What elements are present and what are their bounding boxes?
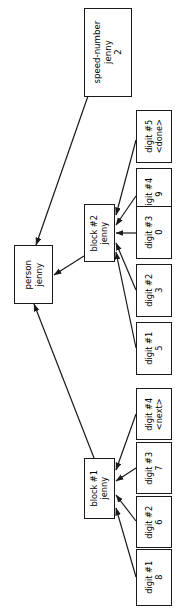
block-1-digit-4-node[interactable]: digit #4<next> [136, 388, 172, 440]
block-2-digit-2-node-value: 3 [154, 274, 164, 307]
block-2-digit-2-node-label: digit #23 [144, 274, 165, 307]
block-2-digit-5-node-label: digit #5<done> [144, 119, 165, 153]
block-1-digit-2-node[interactable]: digit #26 [136, 496, 172, 548]
block-2-digit-1-node-value: 5 [154, 332, 164, 365]
speed-number-node-label: speed-numberjenny2 [92, 21, 124, 84]
person-node-title: person [23, 260, 34, 289]
block-2-digit-2-node[interactable]: digit #23 [136, 264, 172, 317]
block-2-node[interactable]: block #2jenny [84, 204, 115, 262]
speed-number-node-title: speed-number [92, 21, 103, 84]
block-1-digit-4-node-value: <next> [154, 398, 164, 431]
block-1-digit-4-node-title: digit #4 [144, 398, 154, 431]
block-2-digit-3-node-label: digit #30 [144, 216, 165, 249]
edge-speed-number-to-person [36, 96, 88, 245]
block-1-digit-3-node-title: digit #3 [144, 452, 154, 485]
block-1-node[interactable]: block #1jenny [84, 458, 115, 519]
block-1-digit-1-node-label: digit #18 [144, 561, 165, 594]
block-2-node-label: block #2jenny [89, 215, 110, 251]
block-2-digit-3-node-title: digit #3 [144, 216, 154, 249]
block-2-digit-2-node-title: digit #2 [144, 274, 154, 307]
block-1-digit-1-node[interactable]: digit #18 [136, 549, 172, 606]
edge-digit-2-to-block-1 [116, 495, 136, 521]
block-1-node-label: block #1jenny [89, 470, 110, 506]
block-2-digit-1-node-label: digit #15 [144, 332, 165, 365]
edge-digit-5-to-block-2 [116, 140, 136, 215]
edge-digit-3-to-block-1 [116, 468, 136, 481]
edge-digit-4-to-block-1 [116, 414, 136, 470]
block-2-digit-5-node[interactable]: digit #5<done> [136, 110, 172, 163]
edge-digit-2-to-block-2 [116, 243, 136, 290]
block-2-digit-3-node[interactable]: digit #30 [136, 206, 172, 259]
person-node-label: personjenny [23, 260, 44, 289]
block-2-digit-5-node-value: <done> [154, 119, 164, 153]
person-node-owner: jenny [34, 260, 45, 289]
block-1-node-title: block #1 [89, 470, 99, 506]
speed-number-node-value: 2 [113, 21, 124, 84]
block-2-digit-3-node-value: 0 [154, 216, 164, 249]
block-1-digit-3-node-label: digit #37 [144, 452, 165, 485]
speed-number-node[interactable]: speed-numberjenny2 [84, 8, 132, 97]
block-2-node-title: block #2 [89, 215, 99, 251]
block-1-digit-2-node-label: digit #26 [144, 506, 165, 539]
speed-number-node-owner: jenny [103, 21, 114, 84]
block-1-digit-4-node-label: digit #4<next> [144, 398, 165, 431]
edge-digit-4-to-block-2 [116, 196, 136, 225]
block-1-digit-1-node-title: digit #1 [144, 561, 154, 594]
edge-block-2-to-person [54, 256, 84, 275]
block-2-digit-1-node-title: digit #1 [144, 332, 154, 365]
block-1-node-owner: jenny [100, 470, 110, 506]
edge-block-1-to-person [34, 304, 94, 458]
block-2-digit-1-node[interactable]: digit #15 [136, 322, 172, 375]
block-1-digit-3-node-value: 7 [154, 452, 164, 485]
block-1-digit-2-node-value: 6 [154, 506, 164, 539]
diagram-canvas: speed-numberjenny2personjennyblock #2jen… [0, 0, 184, 615]
block-2-node-owner: jenny [100, 215, 110, 251]
block-1-digit-3-node[interactable]: digit #37 [136, 442, 172, 494]
block-1-digit-1-node-value: 8 [154, 561, 164, 594]
person-node[interactable]: personjenny [14, 245, 53, 304]
edge-digit-1-to-block-1 [116, 508, 136, 577]
block-1-digit-2-node-title: digit #2 [144, 506, 154, 539]
edge-digit-1-to-block-2 [116, 252, 136, 348]
block-2-digit-5-node-title: digit #5 [144, 119, 154, 153]
